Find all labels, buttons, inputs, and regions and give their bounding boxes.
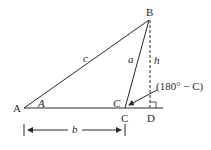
angle-label-a: A xyxy=(37,97,45,109)
vertex-label-b: B xyxy=(146,6,153,18)
exterior-angle-label: (180° − C) xyxy=(156,80,204,93)
side-label-b: b xyxy=(72,123,78,135)
side-label-c: c xyxy=(83,52,88,64)
vertex-label-d: D xyxy=(147,112,155,124)
triangle-diagram: A B C D c a h b A C (180° − C) xyxy=(0,0,211,150)
angle-label-c: C xyxy=(113,97,121,109)
right-angle-marker xyxy=(150,102,156,108)
side-label-a: a xyxy=(128,53,134,65)
vertex-label-a: A xyxy=(13,102,21,114)
altitude-label-h: h xyxy=(154,54,160,66)
exterior-angle-pointer xyxy=(129,90,157,105)
vertex-label-c: C xyxy=(121,112,128,124)
